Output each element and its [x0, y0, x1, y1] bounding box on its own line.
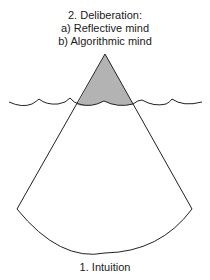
iceberg-tip-above-water: [77, 54, 133, 106]
iceberg-diagram: [0, 0, 210, 280]
intuition-label: 1. Intuition: [0, 261, 210, 274]
